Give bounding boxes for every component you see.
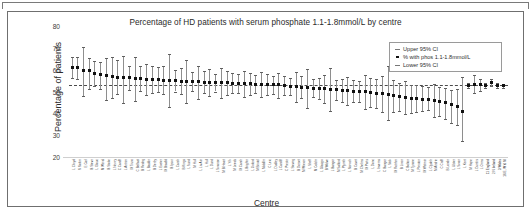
lower-ci-cap bbox=[467, 88, 470, 89]
upper-ci-cap bbox=[398, 83, 401, 84]
data-point-group bbox=[98, 26, 103, 157]
x-axis-tick-label: L Newry bbox=[114, 159, 117, 170]
x-axis-tick-label: B Kings bbox=[183, 159, 186, 170]
legend-item-label: Lower 95% CI bbox=[403, 62, 438, 68]
data-point-marker bbox=[381, 92, 384, 95]
y-axis-tick-label: 30 bbox=[53, 132, 60, 139]
upper-ci-cap bbox=[364, 75, 367, 76]
data-point-group bbox=[288, 26, 293, 157]
upper-ci-cap bbox=[392, 80, 395, 81]
lower-ci-cap bbox=[277, 98, 280, 99]
y-axis-tick-label: 70 bbox=[53, 44, 60, 51]
chart-legend: Upper 95% CI% with phos 1.1-1.8mmol/LLow… bbox=[389, 42, 502, 72]
data-point-marker bbox=[387, 93, 390, 96]
y-axis-tick-label: 60 bbox=[53, 66, 60, 73]
data-point-marker bbox=[99, 73, 102, 76]
data-point-marker bbox=[145, 78, 148, 81]
data-point-group bbox=[179, 26, 184, 157]
data-point-marker bbox=[438, 100, 441, 103]
data-point-group bbox=[75, 26, 80, 157]
data-point-marker bbox=[415, 97, 418, 100]
data-point-marker bbox=[473, 83, 476, 86]
data-point-marker bbox=[88, 69, 91, 72]
upper-ci-cap bbox=[128, 66, 131, 67]
upper-ci-cap bbox=[329, 68, 332, 69]
data-point-marker bbox=[346, 89, 349, 92]
x-axis-tick-label: C Bangor bbox=[384, 159, 387, 172]
lower-ci-cap bbox=[71, 78, 74, 79]
upper-ci-cap bbox=[272, 76, 275, 77]
upper-ci-cap bbox=[76, 57, 79, 58]
data-point-group bbox=[202, 26, 207, 157]
upper-ci-cap bbox=[139, 66, 142, 67]
lower-ci-cap bbox=[502, 88, 505, 89]
dash-icon bbox=[394, 49, 401, 50]
upper-ci-cap bbox=[456, 89, 459, 90]
lower-ci-cap bbox=[341, 102, 344, 103]
data-point-marker bbox=[93, 72, 96, 75]
x-axis-tick-label: M Wstmin bbox=[424, 159, 427, 173]
data-point-marker bbox=[139, 77, 142, 80]
data-point-marker bbox=[214, 81, 217, 84]
x-axis-tick-label: L Oxford bbox=[252, 159, 255, 171]
x-axis-tick-label: B Covnt bbox=[355, 159, 358, 170]
upper-ci-cap bbox=[323, 75, 326, 76]
lower-ci-cap bbox=[128, 90, 131, 91]
x-axis-tick-label: L Dumfrs bbox=[476, 159, 479, 171]
lower-ci-cap bbox=[249, 95, 252, 96]
x-axis-tick-label: L Cardiff bbox=[280, 159, 283, 170]
lower-ci-cap bbox=[111, 98, 114, 99]
lower-ci-cap bbox=[306, 108, 309, 109]
data-point-group bbox=[184, 26, 189, 157]
upper-ci-cap bbox=[134, 57, 137, 58]
data-point-marker bbox=[208, 81, 211, 84]
data-point-marker bbox=[358, 90, 361, 93]
x-axis-tick-label: L Orms bbox=[481, 159, 484, 169]
data-point-group bbox=[81, 26, 86, 157]
lower-ci-cap bbox=[415, 112, 418, 113]
document-outer-border bbox=[2, 2, 529, 9]
lower-ci-cap bbox=[214, 92, 217, 93]
data-point-group bbox=[380, 26, 385, 157]
upper-ci-cap bbox=[168, 54, 171, 55]
x-axis-tick-label: L Stevng bbox=[292, 159, 295, 171]
upper-ci-cap bbox=[220, 68, 223, 69]
data-point-marker bbox=[76, 66, 79, 69]
data-point-marker bbox=[335, 88, 338, 91]
lower-ci-cap bbox=[243, 97, 246, 98]
data-point-group bbox=[196, 26, 201, 157]
x-axis-tick-label: C Bolton bbox=[407, 159, 410, 171]
x-axis-tick-label: L Sheff bbox=[309, 159, 312, 169]
data-point-marker bbox=[433, 99, 436, 102]
lower-ci-cap bbox=[145, 95, 148, 96]
legend-item-label: Upper 95% CI bbox=[403, 46, 438, 52]
lower-ci-cap bbox=[122, 103, 125, 104]
x-axis-tick-label: C Belfast bbox=[137, 159, 140, 171]
data-point-marker bbox=[318, 87, 321, 90]
upper-ci-cap bbox=[71, 57, 74, 58]
upper-ci-cap bbox=[433, 84, 436, 85]
legend-item-label: % with phos 1.1-1.8mmol/L bbox=[403, 54, 470, 60]
upper-ci-cap bbox=[479, 79, 482, 80]
data-point-marker bbox=[398, 95, 401, 98]
upper-ci-cap bbox=[415, 85, 418, 86]
lower-ci-cap bbox=[283, 95, 286, 96]
data-point-marker bbox=[168, 79, 171, 82]
data-point-marker bbox=[323, 87, 326, 90]
data-point-marker bbox=[226, 81, 229, 84]
upper-ci-cap bbox=[369, 78, 372, 79]
x-axis-tick-label: B Ipswi bbox=[171, 159, 174, 169]
chart-figure: Percentage of HD patients with serum pho… bbox=[7, 11, 524, 207]
lower-ci-cap bbox=[461, 141, 464, 142]
x-axis-tick-label: B Wolve bbox=[326, 159, 329, 170]
data-point-marker bbox=[364, 90, 367, 93]
data-point-group bbox=[70, 26, 75, 157]
lower-ci-cap bbox=[208, 96, 211, 97]
upper-ci-cap bbox=[450, 90, 453, 91]
lower-ci-cap bbox=[398, 111, 401, 112]
x-axis-tick-label: L Bangor bbox=[332, 159, 335, 171]
data-point-group bbox=[167, 26, 172, 157]
x-axis-tick-labels: L ClwydN NottmE CarlB StevnL GloucM Wirr… bbox=[63, 159, 508, 197]
lower-ci-cap bbox=[151, 93, 154, 94]
x-axis-tick-label: L Swan bbox=[458, 159, 461, 169]
